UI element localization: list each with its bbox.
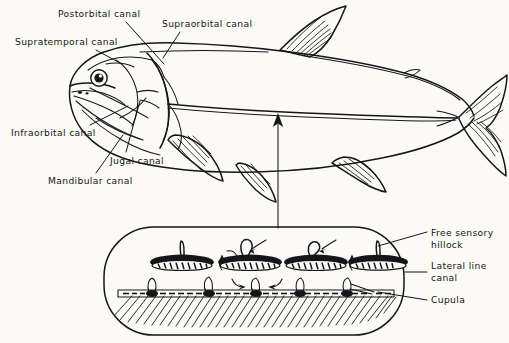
lateral-line-stripe	[168, 104, 458, 118]
canal-neuromast	[203, 290, 215, 297]
label-infraorbital-canal: Infraorbital canal	[11, 127, 96, 138]
gill-cover	[147, 53, 169, 148]
leader-supraorbital	[163, 32, 180, 58]
pectoral-fin	[168, 135, 223, 181]
free-sensory-hillock	[284, 242, 348, 271]
head-canal-branch	[137, 91, 158, 93]
label-postorbital-canal: Postorbital canal	[58, 8, 140, 19]
canal-neuromast	[341, 290, 353, 297]
tissue-hatching	[112, 296, 396, 327]
fish-illustration	[70, 6, 508, 202]
label-jugal-canal: Jugal canal	[109, 155, 164, 166]
leader-mandibular	[96, 135, 123, 173]
dorsal-fin	[280, 6, 346, 57]
hillock-cupula	[376, 241, 380, 256]
hillock-cupula-bent	[308, 242, 319, 256]
lateral-line-stripe-lower	[168, 108, 456, 121]
leader-free-sensory-hillock	[378, 232, 427, 246]
flow-arrow-icon	[227, 251, 237, 256]
label-supratemporal-canal: Supratemporal canal	[15, 36, 118, 47]
label-cupula: Cupula	[431, 294, 465, 305]
fish-eye	[91, 70, 107, 86]
fish-body-outline	[70, 43, 474, 116]
label-free-sensory-hillock-line1: Free sensory	[431, 227, 494, 238]
cheek-outline	[116, 60, 138, 126]
leader-supratemporal	[96, 50, 120, 63]
figure-page: Postorbital canal Supraorbital canal Sup…	[0, 0, 509, 343]
label-mandibular-canal: Mandibular canal	[48, 175, 133, 186]
canal-neuromast	[250, 290, 262, 297]
flow-arrow-icon	[268, 279, 282, 290]
hillock-cupula-bent	[241, 239, 252, 256]
label-lateral-line-canal-line1: Lateral line	[431, 260, 487, 271]
free-sensory-hillock	[150, 241, 214, 271]
magnified-skin-section	[104, 227, 408, 335]
fish-nostril-1	[78, 91, 82, 94]
leader-jugal	[126, 101, 140, 152]
flow-arrow-icon	[232, 279, 246, 290]
hillock-cupula	[180, 241, 184, 256]
flow-arrow-icon	[319, 240, 336, 254]
free-sensory-hillock	[218, 239, 282, 270]
label-free-sensory-hillock-line2: hillock	[431, 239, 463, 250]
pelvic-fin	[236, 163, 276, 202]
canal-neuromast	[294, 290, 306, 297]
label-supraorbital-canal: Supraorbital canal	[162, 18, 252, 29]
dorsal-ridge-line	[140, 51, 268, 53]
supratemporal-canal-line	[106, 63, 134, 67]
lateral-line-figure: Postorbital canal Supraorbital canal Sup…	[0, 0, 509, 343]
back-contour-line	[312, 57, 460, 100]
canal-neuromast	[146, 290, 158, 297]
caudal-fin	[459, 75, 507, 176]
fish-eye-highlight	[99, 74, 102, 77]
lateral-line-canal	[118, 277, 394, 297]
label-lateral-line-canal-line2: canal	[431, 272, 457, 283]
fish-nostril-2	[85, 92, 88, 94]
